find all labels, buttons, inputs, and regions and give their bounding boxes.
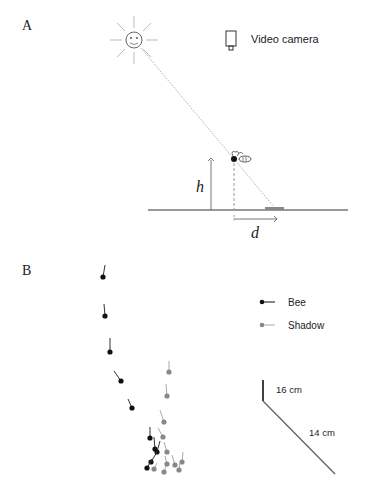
legend-item-shadow: Shadow	[260, 320, 325, 331]
legend-item-bee: Bee	[260, 297, 307, 308]
sun-icon	[110, 16, 158, 64]
shadow-point	[151, 463, 157, 472]
panel-b-label: B	[22, 263, 31, 278]
shadow-marker	[265, 207, 284, 210]
shadow-point	[164, 442, 170, 455]
bee-point	[100, 265, 105, 280]
bee-point	[147, 427, 152, 441]
shadow-point	[161, 466, 166, 475]
scale-bars: 16 cm 14 cm	[263, 380, 335, 474]
shadow-trajectory	[151, 361, 184, 475]
shadow-point	[166, 361, 171, 375]
shadow-point	[160, 410, 167, 425]
legend-bee-label: Bee	[288, 297, 306, 308]
panel-a: A Video camera h	[22, 16, 348, 241]
bee-point	[144, 459, 152, 471]
bee-icon	[231, 151, 251, 162]
panel-a-label: A	[22, 18, 33, 33]
distance-label: d	[251, 224, 260, 241]
legend-shadow-label: Shadow	[288, 320, 325, 331]
scale-vertical-label: 16 cm	[276, 384, 302, 395]
sun-ray-line	[141, 48, 275, 208]
bee-trajectory	[100, 265, 160, 471]
figure: A Video camera h	[0, 0, 366, 490]
height-label: h	[196, 178, 204, 195]
camera-label: Video camera	[251, 33, 320, 45]
shadow-point	[158, 428, 166, 440]
scale-diagonal-label: 14 cm	[309, 427, 335, 438]
panel-b: B Bee Shadow 16 cm 14 cm	[22, 263, 335, 475]
bee-point	[102, 304, 107, 319]
legend: Bee Shadow	[260, 297, 325, 331]
bee-point	[128, 399, 135, 411]
video-camera-icon	[226, 31, 236, 50]
bee-point	[114, 371, 124, 384]
bee-point	[107, 338, 112, 355]
shadow-point	[164, 384, 169, 399]
shadow-point	[164, 456, 169, 467]
shadow-point	[172, 455, 178, 468]
